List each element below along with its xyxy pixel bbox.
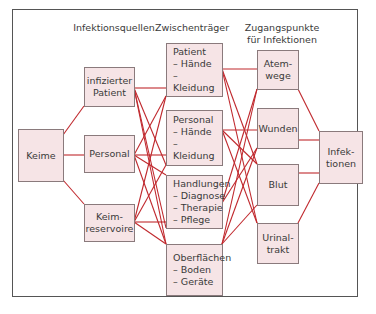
header-intermediate-carriers: Zwischenträger [150, 22, 234, 34]
node-oberflaechen: Oberflächen – Boden – Geräte [166, 244, 223, 296]
node-patient-carrier: Patient – Hände – Kleidung [166, 43, 223, 97]
header-entry-points: Zugangspunkte für Infektionen [240, 22, 324, 46]
node-personal-source: Personal [84, 135, 135, 173]
node-atemwege: Atem- wege [257, 50, 299, 90]
node-blut: Blut [257, 164, 299, 206]
node-wunden: Wunden [257, 108, 299, 149]
header-infection-sources: Infektionsquellen [72, 22, 156, 34]
node-infektionen: Infek- tionen [319, 131, 363, 184]
node-personal-carrier: Personal – Hände – Kleidung [166, 110, 223, 166]
node-urinaltrakt: Urinal- trakt [257, 223, 299, 264]
node-keimreservoire: Keim- reservoire [84, 204, 135, 242]
node-handlungen: Handlungen – Diagnose – Therapie – Pfleg… [166, 175, 223, 229]
node-infizierter-patient: infizierter Patient [84, 67, 135, 107]
node-keime: Keime [18, 129, 64, 182]
